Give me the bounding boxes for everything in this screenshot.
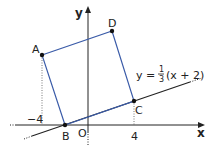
point-B bbox=[63, 123, 67, 127]
equation-prefix: y = bbox=[136, 69, 155, 82]
label-C: C bbox=[135, 104, 143, 117]
equation-numerator: 1 bbox=[159, 65, 164, 74]
tick-4: 4 bbox=[131, 130, 138, 143]
equation-suffix: (x + 2) bbox=[166, 69, 204, 82]
label-B: B bbox=[62, 130, 70, 143]
diagram: A D C B O y x −4 4 y = 1 3 (x + 2) bbox=[0, 0, 211, 153]
y-axis-label: y bbox=[75, 6, 83, 20]
point-A bbox=[40, 53, 44, 57]
x-axis-label: x bbox=[197, 126, 205, 140]
tick-neg4: −4 bbox=[27, 113, 43, 126]
line-dotted-start bbox=[24, 136, 32, 139]
y-axis-arrow-icon bbox=[85, 6, 91, 13]
point-C bbox=[132, 99, 136, 103]
label-A: A bbox=[32, 43, 40, 56]
label-D: D bbox=[108, 17, 116, 30]
origin-label: O bbox=[78, 127, 87, 140]
equation-denominator: 3 bbox=[159, 75, 164, 84]
